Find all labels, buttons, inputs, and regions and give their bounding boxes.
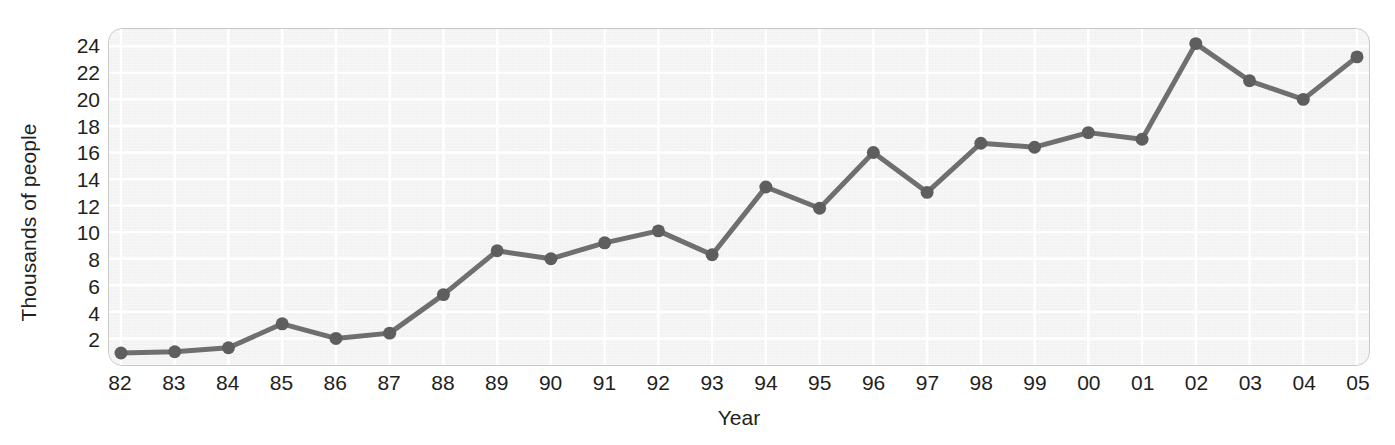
x-axis-tick-label: 84 <box>216 372 239 393</box>
data-point-marker <box>813 202 826 215</box>
vertical-gridlines <box>121 29 1357 365</box>
data-point-marker <box>652 224 665 237</box>
y-axis-title: Thousands of people <box>0 0 58 445</box>
x-axis-tick-label: 91 <box>593 372 616 393</box>
data-point-marker <box>168 345 181 358</box>
data-point-marker <box>867 146 880 159</box>
x-axis-title: Year <box>108 406 1370 430</box>
x-axis-tick-labels: 8283848586878889909192939495969798990001… <box>108 372 1370 402</box>
data-point-marker <box>544 252 557 265</box>
x-axis-tick-label: 95 <box>808 372 831 393</box>
data-point-marker <box>598 236 611 249</box>
data-point-marker <box>114 347 127 360</box>
data-point-marker <box>1351 50 1364 63</box>
y-axis-tick-label: 16 <box>77 142 100 163</box>
y-axis-tick-label: 4 <box>88 302 100 323</box>
data-point-marker <box>383 327 396 340</box>
y-axis-tick-label: 22 <box>77 62 100 83</box>
y-axis-tick-label: 10 <box>77 222 100 243</box>
data-point-marker <box>437 288 450 301</box>
data-point-marker <box>706 248 719 261</box>
data-line <box>121 44 1357 353</box>
x-axis-tick-label: 89 <box>485 372 508 393</box>
data-point-marker <box>1243 74 1256 87</box>
line-chart-figure: Thousands of people 24681012141618202224… <box>0 0 1395 445</box>
x-axis-tick-label: 02 <box>1185 372 1208 393</box>
y-axis-tick-label: 8 <box>88 249 100 270</box>
x-axis-tick-label: 97 <box>916 372 939 393</box>
data-point-marker <box>1189 37 1202 50</box>
x-axis-tick-label: 85 <box>270 372 293 393</box>
data-point-marker <box>276 317 289 330</box>
data-point-marker <box>974 137 987 150</box>
y-axis-tick-label: 6 <box>88 275 100 296</box>
x-axis-tick-label: 86 <box>324 372 347 393</box>
x-axis-tick-label: 93 <box>700 372 723 393</box>
data-point-marker <box>491 244 504 257</box>
data-point-marker <box>1028 141 1041 154</box>
plot-area <box>108 28 1370 366</box>
y-axis-tick-label: 18 <box>77 115 100 136</box>
data-point-marker <box>222 341 235 354</box>
y-axis-tick-label: 14 <box>77 168 100 189</box>
x-axis-tick-label: 99 <box>1023 372 1046 393</box>
data-point-marker <box>329 332 342 345</box>
y-axis-tick-label: 24 <box>77 35 100 56</box>
y-axis-tick-label: 20 <box>77 88 100 109</box>
x-axis-tick-label: 94 <box>754 372 777 393</box>
x-axis-tick-label: 04 <box>1292 372 1315 393</box>
x-axis-tick-label: 87 <box>377 372 400 393</box>
x-axis-tick-label: 88 <box>431 372 454 393</box>
horizontal-gridlines <box>109 46 1369 338</box>
plot-canvas <box>109 29 1369 365</box>
x-axis-tick-label: 01 <box>1131 372 1154 393</box>
x-axis-tick-label: 92 <box>647 372 670 393</box>
y-axis-tick-label: 2 <box>88 329 100 350</box>
x-axis-tick-label: 90 <box>539 372 562 393</box>
x-axis-tick-label: 00 <box>1077 372 1100 393</box>
x-axis-tick-label: 05 <box>1346 372 1369 393</box>
x-axis-tick-label: 83 <box>162 372 185 393</box>
y-axis-tick-label: 12 <box>77 195 100 216</box>
x-axis-tick-label: 82 <box>108 372 131 393</box>
x-axis-tick-label: 96 <box>862 372 885 393</box>
data-point-marker <box>1297 93 1310 106</box>
data-point-marker <box>1082 126 1095 139</box>
y-axis-tick-labels: 24681012141618202224 <box>52 28 100 358</box>
data-point-marker <box>1136 133 1149 146</box>
x-axis-tick-label: 03 <box>1239 372 1262 393</box>
data-point-marker <box>921 186 934 199</box>
data-point-marker <box>759 181 772 194</box>
x-axis-tick-label: 98 <box>970 372 993 393</box>
